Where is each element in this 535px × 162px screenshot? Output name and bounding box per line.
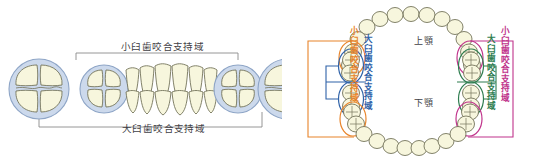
anterior-teeth-upper-row [126,64,217,102]
left-panel-arch-profile: 小臼歯咬合支持域 大臼歯咬合支持域 [0,0,282,162]
premolar-zone-bracket-left [76,53,238,60]
tooth-premolar-occlusal-right [214,65,262,113]
right-panel-dental-arch: 小臼歯咬合支持域 大臼歯咬合支持域 大臼歯咬合支持域 小臼歯咬合支持域 上顎 下… [282,0,535,162]
left-panel-graphic [0,0,282,162]
label-premolar-support-zone-left: 小臼歯咬合支持域 [121,42,204,52]
tooth-molar-occlusal-left [9,59,69,119]
label-molar-support-zone-right-vertical: 大臼歯咬合支持域 [485,34,494,110]
anterior-teeth-lower-row [126,91,217,116]
lower-arch-teeth [356,127,466,156]
label-premolar-support-zone-right-vertical: 小臼歯咬合支持域 [499,26,508,102]
label-upper-jaw: 上顎 [414,37,433,46]
dental-occlusal-support-figure: 小臼歯咬合支持域 大臼歯咬合支持域 [0,0,535,162]
label-premolar-support-zone-left-vertical: 小臼歯咬合支持域 [348,26,357,102]
right-panel-graphic [282,0,535,162]
tooth-molar-occlusal-right [258,59,282,119]
tooth-premolar-occlusal-left [80,65,128,113]
label-molar-support-zone-left-vertical: 大臼歯咬合支持域 [362,34,371,110]
label-molar-support-zone-left: 大臼歯咬合支持域 [122,124,205,134]
label-lower-jaw: 下顎 [414,99,433,108]
